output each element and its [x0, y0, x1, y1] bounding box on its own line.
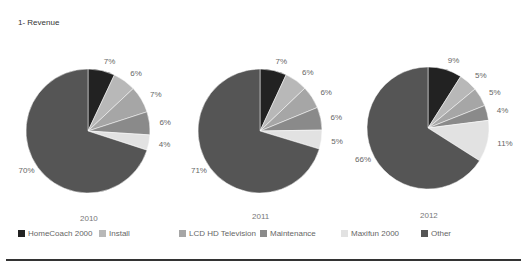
slice-label: 4% — [497, 106, 509, 115]
legend-swatch — [179, 230, 186, 237]
slice-label: 9% — [448, 56, 460, 65]
legend-label: Maxifun 2000 — [351, 229, 399, 238]
pie-2011: 7%6%6%6%5%71% — [191, 57, 343, 193]
legend-item-homecoach: HomeCoach 2000 — [18, 229, 92, 238]
slice-label: 5% — [331, 137, 343, 146]
legend-item-lcd: LCD HD Television — [179, 229, 256, 238]
slice-label: 11% — [497, 139, 512, 148]
legend-label: Maintenance — [270, 229, 316, 238]
legend-label: Install — [109, 229, 130, 238]
legend-label: LCD HD Television — [189, 229, 256, 238]
slice-label: 66% — [355, 155, 371, 164]
slice-label: 7% — [276, 57, 288, 66]
slice-label: 5% — [475, 71, 487, 80]
legend-label: HomeCoach 2000 — [28, 229, 92, 238]
pie-charts: 7%6%7%6%4%70% 7%6%6%6%5%71% 9%5%5%4%11%6… — [0, 0, 529, 263]
slice-label: 6% — [302, 68, 314, 77]
bottom-divider — [6, 259, 521, 261]
pie-2010: 7%6%7%6%4%70% — [19, 57, 171, 193]
slice-label: 6% — [130, 69, 142, 78]
legend-swatch — [18, 230, 25, 237]
slice-label: 7% — [104, 57, 116, 66]
pie-2012: 9%5%5%4%11%66% — [355, 56, 513, 189]
legend-swatch — [341, 230, 348, 237]
legend-swatch — [99, 230, 106, 237]
legend-label: Other — [431, 229, 451, 238]
year-label-2011: 2011 — [252, 212, 269, 221]
legend-swatch — [260, 230, 267, 237]
slice-label: 5% — [489, 88, 501, 97]
slice-label: 7% — [150, 90, 162, 99]
legend-item-maintenance: Maintenance — [260, 229, 316, 238]
legend-swatch — [421, 230, 428, 237]
year-label-2012: 2012 — [420, 211, 438, 220]
legend-item-maxifun: Maxifun 2000 — [341, 229, 399, 238]
slice-label: 6% — [159, 118, 171, 127]
slice-label: 70% — [19, 166, 35, 175]
slice-label: 6% — [331, 113, 343, 122]
slice-label: 6% — [320, 88, 332, 97]
year-label-2010: 2010 — [80, 214, 98, 223]
legend-item-other: Other — [421, 229, 451, 238]
legend-item-install: Install — [99, 229, 130, 238]
slice-label: 4% — [159, 140, 171, 149]
slice-label: 71% — [191, 166, 207, 175]
